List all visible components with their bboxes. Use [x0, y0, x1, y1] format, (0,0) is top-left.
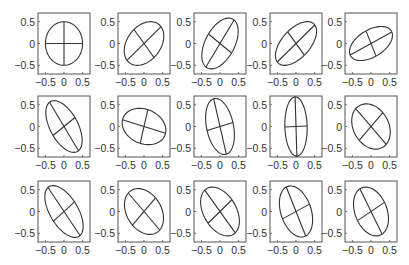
x-tick-label: −0.5 — [115, 244, 136, 256]
x-tick-label: 0.5 — [155, 244, 170, 256]
x-tick-label: 0 — [368, 159, 374, 171]
y-tick-label: −0.5 — [170, 59, 191, 71]
panel-10: −0.500.50.50−0.5 — [321, 96, 397, 171]
y-tick-label: 0.5 — [327, 16, 342, 28]
panel-14: −0.500.50.50−0.5 — [246, 181, 322, 256]
y-tick-label: 0.5 — [327, 99, 342, 111]
y-tick-label: 0.5 — [20, 16, 35, 28]
y-tick-label: 0.5 — [20, 99, 35, 111]
y-tick-label: 0.5 — [20, 184, 35, 196]
minor-axis — [208, 34, 231, 53]
panel-3: −0.500.50.50−0.5 — [170, 13, 246, 88]
y-tick-label: −0.5 — [14, 59, 35, 71]
panel-5: −0.500.50.50−0.5 — [321, 13, 397, 88]
panel-11: −0.500.50.50−0.5 — [14, 181, 90, 256]
x-tick-label: 0 — [293, 159, 299, 171]
x-tick-label: 0.5 — [155, 159, 170, 171]
minor-axis — [53, 202, 74, 221]
x-tick-label: −0.5 — [267, 159, 288, 171]
y-tick-label: 0 — [261, 121, 267, 133]
x-tick-label: 0 — [141, 76, 147, 88]
x-tick-label: −0.5 — [267, 76, 288, 88]
panel-15: −0.500.50.50−0.5 — [321, 181, 397, 256]
x-tick-label: −0.5 — [35, 159, 56, 171]
x-tick-label: −0.5 — [115, 159, 136, 171]
y-tick-label: −0.5 — [94, 142, 115, 154]
x-tick-label: −0.5 — [342, 76, 363, 88]
x-tick-label: 0 — [61, 76, 67, 88]
x-tick-label: −0.5 — [191, 244, 212, 256]
panel-9: −0.500.50.50−0.5 — [246, 96, 322, 171]
y-tick-label: −0.5 — [246, 227, 267, 239]
x-tick-label: 0 — [217, 159, 223, 171]
x-tick-label: 0.5 — [307, 76, 322, 88]
x-tick-label: −0.5 — [342, 159, 363, 171]
x-tick-label: 0.5 — [307, 159, 322, 171]
y-tick-label: 0.5 — [176, 16, 191, 28]
x-tick-label: 0 — [368, 244, 374, 256]
x-tick-label: 0.5 — [231, 244, 246, 256]
y-tick-label: 0 — [336, 38, 342, 50]
y-tick-label: 0 — [336, 206, 342, 218]
minor-axis — [208, 200, 232, 224]
minor-axis — [288, 32, 305, 55]
y-tick-label: 0 — [109, 121, 115, 133]
minor-axis — [366, 31, 376, 56]
y-tick-label: 0.5 — [176, 184, 191, 196]
y-tick-label: 0 — [29, 121, 35, 133]
minor-axis — [134, 29, 154, 57]
x-tick-label: −0.5 — [267, 244, 288, 256]
minor-axis — [140, 110, 148, 144]
y-tick-label: 0 — [185, 38, 191, 50]
y-tick-label: 0.5 — [252, 16, 267, 28]
y-tick-label: 0 — [109, 38, 115, 50]
minor-axis — [283, 204, 310, 219]
y-tick-label: −0.5 — [321, 142, 342, 154]
y-tick-label: 0.5 — [252, 99, 267, 111]
x-tick-label: 0.5 — [231, 76, 246, 88]
minor-axis — [285, 126, 307, 127]
y-tick-label: −0.5 — [246, 142, 267, 154]
y-tick-label: 0 — [185, 206, 191, 218]
y-tick-label: 0.5 — [100, 16, 115, 28]
panel-2: −0.500.50.50−0.5 — [94, 13, 170, 88]
minor-axis — [53, 118, 75, 136]
y-tick-label: 0.5 — [100, 99, 115, 111]
y-tick-label: −0.5 — [170, 142, 191, 154]
y-tick-label: 0 — [29, 38, 35, 50]
x-tick-label: 0 — [141, 159, 147, 171]
x-tick-label: 0.5 — [231, 159, 246, 171]
y-tick-label: 0.5 — [176, 99, 191, 111]
y-tick-label: −0.5 — [14, 142, 35, 154]
x-tick-label: 0 — [293, 76, 299, 88]
panel-13: −0.500.50.50−0.5 — [170, 181, 246, 256]
y-tick-label: −0.5 — [246, 59, 267, 71]
ellipse-grid-figure: −0.500.50.50−0.5−0.500.50.50−0.5−0.500.5… — [0, 0, 409, 265]
y-tick-label: 0.5 — [327, 184, 342, 196]
panel-12: −0.500.50.50−0.5 — [94, 181, 170, 256]
y-tick-label: −0.5 — [94, 227, 115, 239]
y-tick-label: 0 — [261, 206, 267, 218]
y-tick-label: −0.5 — [94, 59, 115, 71]
x-tick-label: 0.5 — [307, 244, 322, 256]
y-tick-label: 0 — [336, 121, 342, 133]
x-tick-label: 0 — [368, 76, 374, 88]
minor-axis — [357, 202, 384, 220]
y-tick-label: −0.5 — [14, 227, 35, 239]
x-tick-label: 0.5 — [75, 76, 90, 88]
y-tick-label: −0.5 — [321, 59, 342, 71]
x-tick-label: −0.5 — [115, 76, 136, 88]
x-tick-label: 0 — [141, 244, 147, 256]
y-tick-label: 0.5 — [100, 184, 115, 196]
y-tick-label: 0 — [29, 206, 35, 218]
panel-7: −0.500.50.50−0.5 — [94, 96, 170, 171]
x-tick-label: −0.5 — [191, 76, 212, 88]
x-tick-label: 0 — [217, 76, 223, 88]
panel-6: −0.500.50.50−0.5 — [14, 96, 90, 171]
panel-8: −0.500.50.50−0.5 — [170, 96, 246, 171]
x-tick-label: 0 — [61, 244, 67, 256]
x-tick-label: 0.5 — [75, 244, 90, 256]
x-tick-label: 0 — [61, 159, 67, 171]
x-tick-label: −0.5 — [35, 244, 56, 256]
y-tick-label: 0 — [185, 121, 191, 133]
